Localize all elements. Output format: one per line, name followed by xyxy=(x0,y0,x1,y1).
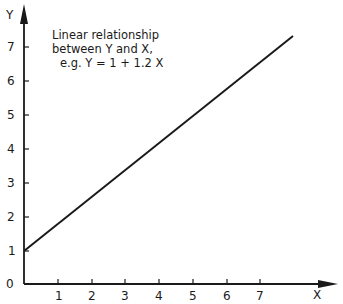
annotation-line: e.g. Y = 1 + 1.2 X xyxy=(52,56,163,70)
x-tick-label: 6 xyxy=(223,290,231,302)
y-tick-label: 5 xyxy=(7,109,15,121)
x-axis-arrow-icon xyxy=(318,280,338,288)
y-tick-label: 0 xyxy=(6,278,14,290)
x-axis-label: X xyxy=(313,289,321,301)
chart: Y X 0 1 2 3 4 5 6 7 1 2 3 4 5 6 7 Linear… xyxy=(0,0,343,304)
y-tick-label: 6 xyxy=(7,75,15,87)
y-tick-label: 4 xyxy=(7,143,15,155)
y-axis-label: Y xyxy=(6,9,13,21)
annotation-line: Linear relationship xyxy=(52,28,163,42)
x-tick-label: 7 xyxy=(256,290,264,302)
x-tick-label: 3 xyxy=(121,290,129,302)
y-tick-label: 3 xyxy=(7,177,15,189)
annotation-line: between Y and X, xyxy=(52,42,163,56)
y-axis-arrow-icon xyxy=(20,4,28,24)
x-tick-label: 1 xyxy=(55,290,63,302)
y-tick-label: 2 xyxy=(7,211,15,223)
x-tick-label: 5 xyxy=(189,290,197,302)
y-tick-label: 7 xyxy=(7,41,15,53)
y-tick-label: 1 xyxy=(8,245,16,257)
annotation: Linear relationship between Y and X, e.g… xyxy=(52,28,163,70)
x-tick-label: 2 xyxy=(88,290,96,302)
x-tick-label: 4 xyxy=(155,290,163,302)
